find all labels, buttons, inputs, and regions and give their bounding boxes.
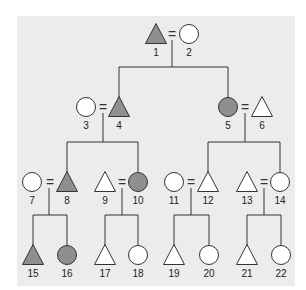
unaffected-male-triangle-icon xyxy=(164,245,185,265)
individual-label: 6 xyxy=(259,120,265,131)
affected-male-triangle-icon xyxy=(23,245,44,265)
individual-label: 8 xyxy=(64,195,70,206)
individual-13: 13 xyxy=(237,172,258,206)
individual-label: 18 xyxy=(132,268,144,279)
individual-label: 7 xyxy=(29,195,35,206)
marriage-equals-sign: = xyxy=(187,174,195,190)
individual-1: 1 xyxy=(146,24,167,58)
unaffected-male-triangle-icon xyxy=(237,245,258,265)
individual-7: 7 xyxy=(23,173,42,206)
individual-16: 16 xyxy=(58,246,77,279)
connector-lines: ======= xyxy=(33,26,281,246)
individual-label: 22 xyxy=(275,268,287,279)
affected-male-triangle-icon xyxy=(146,24,167,44)
individual-label: 13 xyxy=(241,195,253,206)
individual-17: 17 xyxy=(95,245,116,279)
individual-20: 20 xyxy=(200,246,219,279)
affected-female-circle-icon xyxy=(58,246,77,265)
individual-4: 4 xyxy=(109,97,130,131)
unaffected-female-circle-icon xyxy=(200,246,219,265)
individual-label: 11 xyxy=(169,195,180,206)
unaffected-male-triangle-icon xyxy=(237,172,258,192)
individual-14: 14 xyxy=(271,173,290,206)
unaffected-female-circle-icon xyxy=(129,246,148,265)
unaffected-female-circle-icon xyxy=(271,173,290,192)
individual-18: 18 xyxy=(129,246,148,279)
individual-6: 6 xyxy=(252,97,273,131)
individual-10: 10 xyxy=(129,173,148,206)
individual-label: 14 xyxy=(274,195,286,206)
unaffected-male-triangle-icon xyxy=(252,97,273,117)
pedigree-chart: =======123456789101112131415161718192021… xyxy=(0,0,306,290)
individual-label: 9 xyxy=(102,195,108,206)
affected-female-circle-icon xyxy=(219,98,238,117)
unaffected-male-triangle-icon xyxy=(95,172,116,192)
individual-label: 2 xyxy=(186,47,192,58)
individual-15: 15 xyxy=(23,245,44,279)
individual-9: 9 xyxy=(95,172,116,206)
marriage-equals-sign: = xyxy=(260,174,268,190)
unaffected-male-triangle-icon xyxy=(198,172,219,192)
unaffected-female-circle-icon xyxy=(180,25,199,44)
individual-label: 20 xyxy=(203,268,215,279)
individual-label: 1 xyxy=(153,47,159,58)
affected-female-circle-icon xyxy=(129,173,148,192)
individual-19: 19 xyxy=(164,245,185,279)
individual-label: 12 xyxy=(202,195,214,206)
unaffected-female-circle-icon xyxy=(272,246,291,265)
individual-21: 21 xyxy=(237,245,258,279)
individual-12: 12 xyxy=(198,172,219,206)
individual-3: 3 xyxy=(77,98,96,131)
individual-label: 15 xyxy=(27,268,39,279)
affected-male-triangle-icon xyxy=(109,97,130,117)
unaffected-male-triangle-icon xyxy=(95,245,116,265)
individual-label: 3 xyxy=(83,120,89,131)
individual-2: 2 xyxy=(180,25,199,58)
individual-11: 11 xyxy=(165,173,184,206)
unaffected-female-circle-icon xyxy=(23,173,42,192)
individual-label: 21 xyxy=(241,268,253,279)
individual-label: 19 xyxy=(168,268,180,279)
marriage-equals-sign: = xyxy=(99,99,107,115)
marriage-equals-sign: = xyxy=(241,99,249,115)
unaffected-female-circle-icon xyxy=(165,173,184,192)
individual-label: 4 xyxy=(116,120,122,131)
individual-label: 17 xyxy=(99,268,111,279)
individual-8: 8 xyxy=(57,172,78,206)
unaffected-female-circle-icon xyxy=(77,98,96,117)
marriage-equals-sign: = xyxy=(118,174,126,190)
individual-label: 5 xyxy=(225,120,231,131)
individual-label: 10 xyxy=(132,195,144,206)
individual-5: 5 xyxy=(219,98,238,131)
affected-male-triangle-icon xyxy=(57,172,78,192)
marriage-equals-sign: = xyxy=(168,26,176,42)
individual-label: 16 xyxy=(61,268,73,279)
individual-22: 22 xyxy=(272,246,291,279)
marriage-equals-sign: = xyxy=(46,174,54,190)
